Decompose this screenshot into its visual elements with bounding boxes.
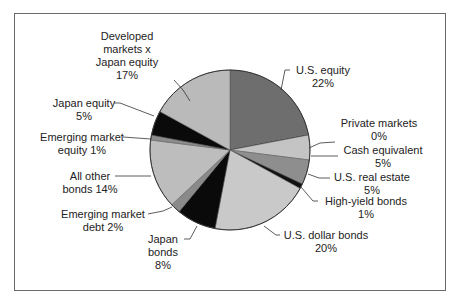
label-pct: 22% — [288, 77, 358, 90]
label-text: High-yield bonds — [316, 195, 416, 208]
label-text: Japan equity — [82, 56, 172, 69]
label-japan-bonds: Japan bonds 8% — [141, 233, 185, 272]
label-high-yield-bonds: High-yield bonds 1% — [316, 195, 416, 221]
leader-japan-equity — [114, 103, 154, 116]
label-em-debt: Emerging market debt 2% — [57, 208, 149, 234]
label-us-dollar-bonds: U.S. dollar bonds 20% — [276, 229, 376, 255]
label-em-equity: Emerging market equity 1% — [36, 131, 128, 157]
label-text: Japan — [141, 233, 185, 246]
label-pct: 8% — [141, 259, 185, 272]
label-text: equity 1% — [36, 144, 128, 157]
label-pct: 0% — [334, 130, 424, 143]
label-text: All other — [58, 170, 122, 183]
leader-japan-bonds — [184, 226, 197, 239]
pie-slices — [150, 70, 310, 230]
label-text: U.S. dollar bonds — [276, 229, 376, 242]
label-private-markets: Private markets 0% — [334, 117, 424, 143]
label-text: Emerging market — [36, 131, 128, 144]
label-text: bonds 14% — [58, 183, 122, 196]
label-all-other-bonds: All other bonds 14% — [58, 170, 122, 196]
label-cash-equivalent: Cash equivalent 5% — [338, 144, 428, 170]
label-developed-markets: Developed markets x Japan equity 17% — [82, 30, 172, 82]
label-pct: 5% — [48, 110, 120, 123]
label-text: Japan equity — [48, 97, 120, 110]
label-text: bonds — [141, 246, 185, 259]
label-pct: 5% — [338, 157, 428, 170]
label-pct: 1% — [316, 208, 416, 221]
label-text: U.S. real estate — [327, 171, 417, 184]
label-pct: 17% — [82, 69, 172, 82]
leader-private — [309, 142, 335, 148]
leader-em-debt — [148, 207, 172, 214]
label-text: Cash equivalent — [338, 144, 428, 157]
label-text: Emerging market — [57, 208, 149, 221]
label-us-real-estate: U.S. real estate 5% — [327, 171, 417, 197]
label-japan-equity: Japan equity 5% — [48, 97, 120, 123]
label-text: U.S. equity — [288, 64, 358, 77]
label-text: Developed — [82, 30, 172, 43]
label-text: markets x — [82, 43, 172, 56]
label-pct: 20% — [276, 242, 376, 255]
label-text: Private markets — [334, 117, 424, 130]
label-us-equity: U.S. equity 22% — [288, 64, 358, 90]
label-text: debt 2% — [57, 221, 149, 234]
